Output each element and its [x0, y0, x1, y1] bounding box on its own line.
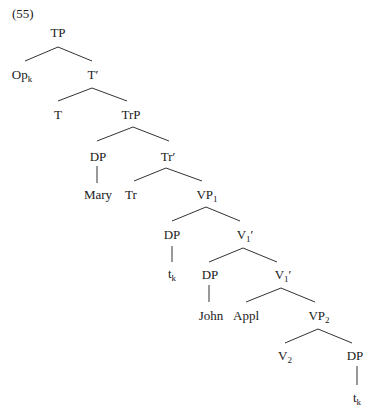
tree-node-op: Opk [12, 68, 32, 82]
tree-node-t: T [54, 108, 62, 122]
tree-branch [246, 288, 281, 302]
tree-node-vp1: VP1 [196, 188, 217, 202]
tree-branch [134, 168, 166, 181]
tree-node-tr: Tr [125, 188, 137, 202]
tree-node-v1a: V1′ [237, 228, 254, 242]
tree-branch [172, 207, 206, 221]
tree-branch [281, 288, 315, 302]
tree-node-v1b: V1′ [275, 268, 292, 282]
tree-branch [206, 207, 240, 221]
tree-node-dp2: DP [164, 228, 181, 242]
tree-node-tk2: tk [353, 391, 361, 405]
tree-node-t1: T′ [88, 68, 99, 82]
tree-node-mary: Mary [84, 188, 112, 202]
tree-branch [243, 248, 277, 262]
tree-branch [25, 47, 58, 61]
tree-node-dp4: DP [347, 349, 364, 363]
tree-node-dp3: DP [202, 268, 219, 282]
tree-branch [166, 168, 202, 181]
tree-node-tr1: Tr′ [161, 150, 176, 164]
tree-branch [97, 127, 133, 141]
tree-node-trp: TrP [121, 108, 140, 122]
tree-node-v2: V2 [278, 349, 292, 363]
tree-branch [58, 47, 92, 61]
tree-branch [58, 88, 92, 101]
tree-node-tk1: tk [168, 267, 176, 281]
tree-branch [133, 127, 169, 141]
tree-branch [92, 88, 127, 101]
tree-branch [285, 329, 318, 343]
tree-node-vp2: VP2 [308, 309, 329, 323]
tree-node-appl: Appl [233, 309, 259, 323]
tree-node-john: John [199, 309, 224, 323]
tree-branch [318, 329, 352, 343]
syntax-tree-edges [0, 0, 378, 412]
tree-branch [209, 248, 243, 262]
tree-node-tp: TP [50, 26, 65, 40]
tree-node-dp1: DP [90, 150, 107, 164]
